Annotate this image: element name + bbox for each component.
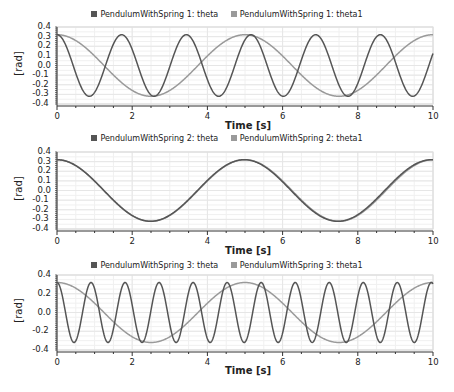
- x-tick-label: 0: [54, 357, 59, 367]
- x-tick-label: 4: [205, 357, 210, 367]
- x-tick-label: 4: [205, 111, 210, 121]
- y-tick-label: -0.3: [32, 213, 49, 223]
- x-tick-label: 0: [54, 236, 59, 246]
- x-tick-label: 0: [54, 111, 59, 121]
- y-tick-label: 0.4: [37, 269, 51, 279]
- x-tick-label: 10: [428, 236, 439, 246]
- y-tick-label: -0.4: [32, 98, 49, 108]
- y-tick-label: 0.3: [37, 156, 51, 166]
- y-tick-label: 0.1: [37, 175, 51, 185]
- y-tick-label: 0.0: [37, 185, 51, 195]
- y-tick-label: -0.3: [32, 88, 49, 98]
- x-tick-label: 10: [428, 111, 439, 121]
- y-tick-label: -0.4: [32, 223, 49, 233]
- x-tick-label: 2: [130, 111, 135, 121]
- x-tick-label: 6: [280, 236, 285, 246]
- y-tick-label: -0.4: [32, 344, 49, 354]
- x-tick-label: 6: [280, 111, 285, 121]
- x-tick-label: 2: [130, 357, 135, 367]
- y-tick-label: 0.4: [37, 21, 51, 31]
- plot-canvas[interactable]: [0, 0, 454, 392]
- x-tick-label: 4: [205, 236, 210, 246]
- x-tick-label: 8: [355, 357, 360, 367]
- y-tick-label: 0.2: [37, 40, 51, 50]
- y-tick-label: -0.2: [32, 204, 49, 214]
- y-tick-label: 0.1: [37, 50, 51, 60]
- x-tick-label: 8: [355, 111, 360, 121]
- y-tick-label: 0.4: [37, 146, 51, 156]
- y-tick-label: -0.2: [32, 79, 49, 89]
- y-tick-label: 0.3: [37, 31, 51, 41]
- y-tick-label: 0.0: [37, 307, 51, 317]
- x-tick-label: 2: [130, 236, 135, 246]
- y-tick-label: 0.2: [37, 165, 51, 175]
- x-tick-label: 6: [280, 357, 285, 367]
- x-tick-label: 10: [428, 357, 439, 367]
- y-tick-label: -0.1: [32, 194, 49, 204]
- y-tick-label: 0.2: [37, 288, 51, 298]
- y-tick-label: -0.2: [32, 325, 49, 335]
- y-tick-label: 0.0: [37, 60, 51, 70]
- y-tick-label: -0.1: [32, 69, 49, 79]
- x-tick-label: 8: [355, 236, 360, 246]
